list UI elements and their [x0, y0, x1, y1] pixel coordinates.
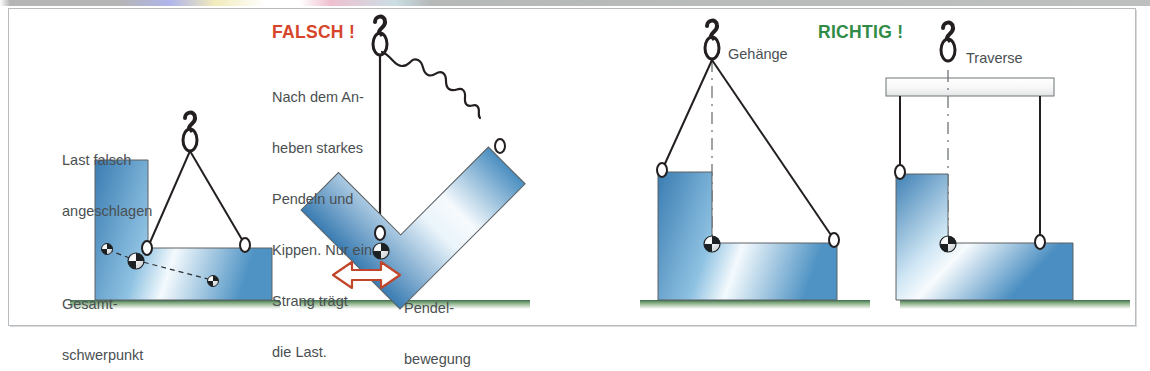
load-body	[896, 174, 1073, 300]
label-line-5: Strang trägt	[272, 293, 372, 310]
spreader-beam	[886, 78, 1054, 96]
centre-of-gravity-marker	[940, 236, 956, 252]
label-line-1: Nach dem An-	[272, 89, 372, 106]
label-traverse: Traverse	[966, 50, 1023, 67]
label-line-2: bewegung	[404, 351, 471, 368]
heading-falsch: FALSCH !	[272, 22, 355, 43]
label-pendelbewegung: Pendel- bewegung	[404, 266, 471, 371]
label-line-1: Gesamt-	[62, 296, 143, 313]
label-line-2: schwerpunkt	[62, 347, 143, 364]
crane-hook	[705, 21, 719, 59]
load-body	[658, 172, 837, 300]
centre-of-gravity-marker	[373, 243, 389, 259]
crane-hook	[941, 23, 955, 61]
slack-strand	[382, 52, 480, 118]
centre-of-gravity-marker	[704, 236, 720, 252]
label-line-1: Pendel-	[404, 300, 471, 317]
label-gesamtschwerpunkt: Gesamt- schwerpunkt	[62, 262, 143, 371]
heading-richtig: RICHTIG !	[818, 22, 903, 43]
sling-strands	[148, 151, 244, 247]
label-last-falsch-angeschlagen: Last falsch angeschlagen	[62, 118, 152, 254]
label-line-3: Pendeln und	[272, 191, 372, 208]
panel-right-sling-assembly	[640, 21, 870, 309]
label-line-2: heben starkes	[272, 140, 372, 157]
label-line-4: Kippen. Nur ein	[272, 242, 372, 259]
label-gehaenge: Gehänge	[728, 46, 788, 63]
label-falsch-description: Nach dem An- heben starkes Pendeln und K…	[272, 55, 372, 371]
label-line-1: Last falsch	[62, 152, 152, 169]
label-line-2: angeschlagen	[62, 203, 152, 220]
label-line-6: die Last.	[272, 344, 372, 361]
ground-line	[640, 300, 870, 309]
ground-line	[900, 300, 1130, 309]
crane-hook	[183, 113, 197, 151]
crane-hook	[373, 17, 387, 55]
